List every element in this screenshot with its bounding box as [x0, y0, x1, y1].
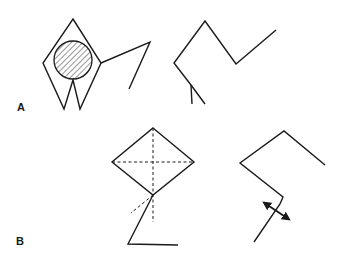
panel-label-a: A: [17, 101, 25, 113]
arm-line-a: [101, 42, 150, 89]
branch-line-a: [191, 85, 192, 104]
panel-label-b: B: [16, 235, 24, 247]
dashed-diagonal: [131, 195, 153, 213]
double-arrow-icon: [266, 204, 287, 218]
zigzag-line-b: [240, 131, 325, 242]
diagram-canvas: A B: [0, 0, 339, 257]
figure-b-left: [112, 128, 194, 245]
zigzag-line-a: [174, 21, 276, 104]
hatched-circle: [54, 41, 92, 79]
figure-a-left: [43, 19, 150, 109]
figure-b-right: [240, 131, 325, 242]
figure-a-right: [174, 21, 276, 104]
